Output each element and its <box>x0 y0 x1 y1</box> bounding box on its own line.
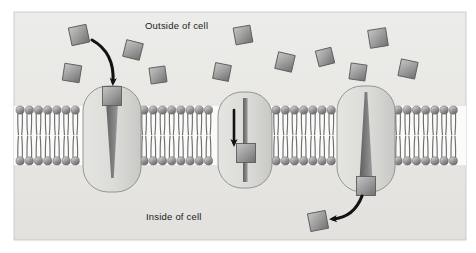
label-inside-of-cell: Inside of cell <box>146 211 202 222</box>
molecule-outside-9 <box>349 63 367 81</box>
molecule-outside-8 <box>315 47 334 66</box>
molecule-outside-4 <box>149 66 167 84</box>
molecule-released-inside <box>307 210 328 231</box>
molecule-outside-6 <box>233 25 253 45</box>
molecule-in-middle-pore <box>237 144 256 163</box>
label-outside-of-cell: Outside of cell <box>145 20 208 31</box>
channel-protein-middle <box>218 92 272 188</box>
molecule-outside-2 <box>62 63 81 82</box>
molecule-outside-7 <box>275 52 295 72</box>
molecule-outside-11 <box>398 59 418 79</box>
molecule-at-right-exit <box>357 177 376 196</box>
membrane-transport-figure: Outside of cell Inside of cell <box>0 0 476 253</box>
diagram-canvas <box>0 0 476 253</box>
molecule-outside-5 <box>213 63 232 82</box>
molecule-outside-10 <box>368 28 389 49</box>
molecule-outside-3 <box>123 40 144 61</box>
molecule-outside-1 <box>68 24 89 45</box>
pore-straight <box>243 98 248 182</box>
channel-proteins <box>83 86 395 192</box>
molecule-at-left-pore <box>103 87 122 106</box>
